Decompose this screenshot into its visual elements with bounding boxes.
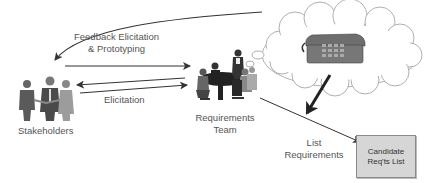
candidate-list-label-line2: Req'ts List (367, 157, 404, 167)
candidate-list-label-line1: Candidate (367, 147, 404, 157)
feedback-label: Feedback Elicitation & Prototyping (74, 31, 159, 55)
arrow-team-to-stakeholders (77, 78, 185, 85)
telephone-icon (302, 34, 365, 63)
elicitation-label: Elicitation (104, 94, 145, 106)
stakeholders-label: Stakeholders (18, 125, 73, 137)
arrow-stakeholders-to-team-2 (80, 85, 187, 93)
list-requirements-arrow (260, 98, 360, 142)
feedback-label-line1: Feedback Elicitation (74, 31, 159, 43)
requirements-team-illustration (196, 50, 257, 101)
list-requirements-label: List Requirements (284, 137, 344, 161)
stakeholders-illustration (19, 77, 74, 122)
list-requirements-label-line1: List (284, 137, 344, 149)
requirements-team-label-line1: Requirements (193, 112, 257, 124)
requirements-team-label: Requirements Team (193, 112, 257, 136)
requirements-team-label-line2: Team (193, 124, 257, 136)
candidate-reqts-list-box: Candidate Req'ts List (356, 135, 416, 178)
feedback-label-line2: & Prototyping (74, 43, 159, 55)
list-requirements-label-line2: Requirements (284, 149, 344, 161)
